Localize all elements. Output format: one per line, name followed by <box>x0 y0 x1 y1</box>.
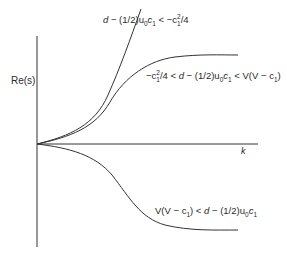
curve-saturating-negative <box>37 144 238 230</box>
y-axis-label: Re(s) <box>11 76 35 86</box>
curve-label-saturating-negative: V(V − c1) < d − (1/2)u0c1 <box>155 206 257 216</box>
curve-saturating-positive <box>37 55 238 144</box>
curve-steep <box>37 9 141 144</box>
x-axis-label: k <box>241 147 246 156</box>
curve-label-saturating-positive: −c21/4 < d − (1/2)u0c1 < V(V − c1) <box>146 70 281 83</box>
curve-label-steep: d − (1/2)u0c1 < −c21/4 <box>103 14 189 27</box>
y-axis-label-text: Re(s) <box>11 75 35 86</box>
x-axis-label-text: k <box>241 146 246 156</box>
diagram-canvas <box>0 0 287 256</box>
